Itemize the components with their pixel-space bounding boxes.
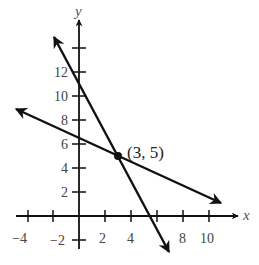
y-tick-label: 6 xyxy=(61,137,68,152)
x-tick-label: 4 xyxy=(127,231,134,246)
x-tick-label: 8 xyxy=(179,231,186,246)
coordinate-graph: x −4 2 4 8 10 y −2 2 4 6 8 10 12 (3, 5) xyxy=(0,0,259,265)
x-tick-label: 10 xyxy=(200,231,214,246)
intersection-label: (3, 5) xyxy=(127,143,164,162)
x-tick-label: 2 xyxy=(99,231,106,246)
intersection-point xyxy=(114,152,122,160)
y-tick-label: 12 xyxy=(54,65,68,80)
x-tick-label: −4 xyxy=(12,231,27,246)
y-tick-label: 10 xyxy=(54,89,68,104)
y-tick-label: 2 xyxy=(61,185,68,200)
x-axis-label: x xyxy=(242,207,250,223)
x-axis: x −4 2 4 8 10 xyxy=(12,207,250,246)
y-tick-label: 8 xyxy=(61,113,68,128)
y-tick-label: 4 xyxy=(61,161,68,176)
y-tick-label: −2 xyxy=(50,233,65,248)
y-axis-label: y xyxy=(73,3,82,19)
